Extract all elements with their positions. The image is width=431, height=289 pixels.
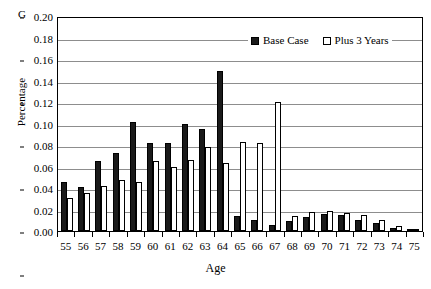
x-axis-tick-label: 69 — [301, 240, 318, 256]
bar-plus-3-years — [188, 160, 194, 231]
x-axis-tick-label: 63 — [196, 240, 213, 256]
bar-group — [249, 18, 266, 231]
bar-group — [145, 18, 162, 231]
y-axis-tick-label: 0.04 — [24, 184, 53, 195]
x-axis-tick-mark — [318, 232, 319, 237]
x-axis-tick-mark — [371, 232, 372, 237]
bar-group — [162, 18, 179, 231]
x-axis-tick-mark — [162, 232, 163, 237]
bar-group — [110, 18, 127, 231]
chart-legend: Base CasePlus 3 Years — [248, 33, 392, 48]
x-axis-tick-label: 75 — [405, 240, 422, 256]
y-axis-tick-labels: 0.200.180.160.140.120.100.080.060.040.02… — [24, 11, 53, 235]
x-axis-tick-label: 66 — [249, 240, 266, 256]
bar-plus-3-years — [292, 216, 298, 231]
x-axis-tick-label: 70 — [318, 240, 335, 256]
y-axis-tick-label: 0.06 — [24, 162, 53, 173]
bar-plus-3-years — [396, 226, 402, 231]
x-axis-tick-label: 58 — [109, 240, 126, 256]
bar-plus-3-years — [327, 211, 333, 231]
bar-plus-3-years — [153, 161, 159, 231]
hollow-square-icon — [323, 37, 331, 45]
bar-plus-3-years — [205, 147, 211, 231]
x-axis-title: Age — [0, 261, 431, 276]
bar-plus-3-years — [379, 220, 385, 231]
x-axis-tick-label: 62 — [179, 240, 196, 256]
x-axis-tick-mark — [196, 232, 197, 237]
filled-square-icon — [251, 37, 259, 45]
x-axis-tick-label: 56 — [74, 240, 91, 256]
x-axis-tick-label: 55 — [57, 240, 74, 256]
x-axis-tick-mark — [214, 232, 215, 237]
x-axis-tick-label: 72 — [353, 240, 370, 256]
bar-group — [127, 18, 144, 231]
x-axis-tick-mark — [266, 232, 267, 237]
y-axis-tick-label: 0.18 — [24, 33, 53, 44]
bar-group — [387, 18, 404, 231]
bar-plus-3-years — [84, 193, 90, 231]
x-axis-tick-label: 67 — [266, 240, 283, 256]
x-axis-tick-mark — [388, 232, 389, 237]
y-axis-tick-label: 0.20 — [24, 12, 53, 23]
bar-group — [370, 18, 387, 231]
bar-group — [301, 18, 318, 231]
x-axis-tick-label: 71 — [336, 240, 353, 256]
y-axis-tick-label: 0.10 — [24, 119, 53, 130]
bar-plus-3-years — [171, 167, 177, 232]
bar-group — [266, 18, 283, 231]
x-axis-tick-mark — [57, 232, 58, 237]
bar-plus-3-years — [240, 142, 246, 231]
x-axis-tick-mark — [92, 232, 93, 237]
bar-plus-3-years — [309, 212, 315, 231]
plot-area — [58, 18, 422, 231]
y-axis-tick-label: 0.14 — [24, 76, 53, 87]
legend-label: Plus 3 Years — [335, 35, 389, 46]
x-axis-tick-mark — [423, 232, 424, 237]
bar-plus-3-years — [67, 198, 73, 231]
plot-frame — [57, 17, 423, 232]
x-axis-tick-label: 59 — [127, 240, 144, 256]
legend-entry: Plus 3 Years — [323, 35, 389, 46]
x-axis-tick-mark — [74, 232, 75, 237]
x-axis-tick-label: 68 — [283, 240, 300, 256]
x-axis-tick-label: 65 — [231, 240, 248, 256]
y-axis-tick-label: 0.12 — [24, 98, 53, 109]
bar-group — [318, 18, 335, 231]
x-axis-tick-mark — [249, 232, 250, 237]
x-axis-tick-mark — [284, 232, 285, 237]
bar-group — [405, 18, 422, 231]
legend-label: Base Case — [263, 35, 309, 46]
x-axis-tick-mark — [406, 232, 407, 237]
bar-plus-3-years — [344, 213, 350, 231]
x-axis-tick-mark — [336, 232, 337, 237]
x-axis-tick-label: 64 — [214, 240, 231, 256]
x-axis-tick-mark — [144, 232, 145, 237]
bar-group — [335, 18, 352, 231]
bar-group — [93, 18, 110, 231]
bar-plus-3-years — [223, 163, 229, 231]
x-axis-tick-mark — [127, 232, 128, 237]
bar-plus-3-years — [119, 180, 125, 231]
y-axis-tick-label: 0.02 — [24, 205, 53, 216]
x-axis-tick-label: 57 — [92, 240, 109, 256]
x-axis-tick-labels: 5556575859606162636465666768697071727374… — [57, 240, 423, 256]
y-axis-tick-label: 0.00 — [24, 227, 53, 238]
x-axis-tick-label: 61 — [162, 240, 179, 256]
bar-group — [179, 18, 196, 231]
y-axis-tick-label: 0.08 — [24, 141, 53, 152]
chart-screenshot: G Percentage 0.200.180.160.140.120.100.0… — [0, 0, 431, 289]
bar-plus-3-years — [136, 182, 142, 231]
x-axis-tick-mark — [109, 232, 110, 237]
y-axis-tick-mark — [20, 18, 24, 19]
x-axis-tick-label: 60 — [144, 240, 161, 256]
bar-group — [231, 18, 248, 231]
bar-group — [283, 18, 300, 231]
x-axis-tick-label: 73 — [371, 240, 388, 256]
bar-group — [353, 18, 370, 231]
bar-plus-3-years — [275, 102, 281, 231]
bar-group — [58, 18, 75, 231]
bar-group — [214, 18, 231, 231]
x-axis-tick-mark — [231, 232, 232, 237]
legend-entry: Base Case — [251, 35, 309, 46]
bar-plus-3-years — [101, 186, 107, 231]
